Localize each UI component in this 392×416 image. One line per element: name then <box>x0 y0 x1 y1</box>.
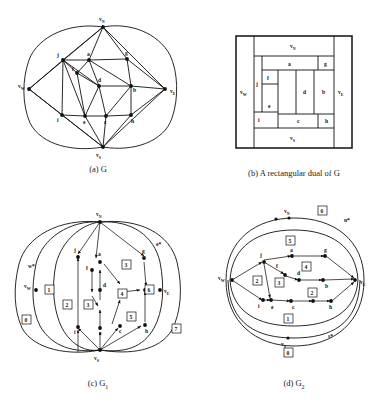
g1-label-f: f <box>86 265 88 271</box>
g2-face-5: 5 <box>289 238 292 244</box>
dual-room-f: f <box>267 75 269 81</box>
g2-label-h: h <box>329 304 333 310</box>
g2-label-n-star: n* <box>344 217 350 223</box>
g2-face-0: 0 <box>287 350 290 356</box>
g2-label-j: j <box>259 252 262 258</box>
panel-b-rectangular-dual: vN vS vW vE a g j f e d b i c h <box>196 22 392 162</box>
edges-from-vs <box>29 89 165 147</box>
vertex-label-h: h <box>131 118 135 124</box>
vertex-label-f: f <box>72 66 74 72</box>
caption-b: (b) A rectangular dual of G <box>196 168 392 178</box>
g2-contour-3 <box>230 280 358 326</box>
outer-contour-3 <box>54 222 100 350</box>
g1-face-7: 7 <box>175 326 178 332</box>
g2-face-2b: 2 <box>311 290 314 296</box>
dual-outer-frame <box>236 36 352 148</box>
g1-label-a: a <box>98 251 101 257</box>
g1-directed-edges <box>78 222 146 352</box>
g2-face-1: 1 <box>287 316 290 322</box>
g2-label-c: c <box>292 304 295 310</box>
dual-room-d: d <box>303 89 307 95</box>
g2-face-2a: 2 <box>256 278 259 284</box>
g2-label-e: e <box>271 304 274 310</box>
panel-a-graph-g: vN vS vW vE j a g f d b i e c h <box>0 0 196 160</box>
g2-label-s-star: s* <box>328 333 333 339</box>
g1-face-3b: 3 <box>125 262 128 268</box>
g2-label-b: b <box>325 283 328 289</box>
caption-a: (a) G <box>0 164 196 174</box>
vertex-label-i: i <box>57 117 59 123</box>
g1-label-j: j <box>73 247 76 253</box>
g1-label-vn: vN <box>96 211 102 219</box>
g1-label-e: e <box>99 330 102 336</box>
dual-label-vn: vN <box>290 43 296 51</box>
g1-face-0: 0 <box>25 317 28 323</box>
dual-label-vs: vS <box>290 135 296 143</box>
vertex-label-j: j <box>56 52 59 58</box>
g2-face-3: 3 <box>278 280 281 286</box>
vertex-label-g: g <box>125 50 128 56</box>
g2-label-ve: vE <box>360 279 366 287</box>
vertex-label-e: e <box>83 119 86 125</box>
g1-face-3a: 3 <box>87 302 90 308</box>
panel-b-svg: vN vS vW vE a g j f e d b i c h <box>196 22 392 162</box>
caption-c: (c) G1 <box>0 378 196 390</box>
caption-d-main: (d) G <box>283 378 301 388</box>
vertex-label-c: c <box>104 119 107 125</box>
g2-face-4: 4 <box>305 264 308 270</box>
outer-contour-1b <box>100 221 180 352</box>
panel-a-svg: vN vS vW vE j a g f d b i e c h <box>0 0 196 160</box>
dual-room-i: i <box>258 117 260 123</box>
g1-face-1: 1 <box>48 287 51 293</box>
panel-d-graph-g2: vN vS vW vE j a g f d b i e c h n* s* 0 … <box>196 200 392 370</box>
dual-label-ve: vE <box>338 89 344 97</box>
panel-d-svg: vN vS vW vE j a g f d b i e c h n* s* 0 … <box>196 200 392 370</box>
g1-face-2: 2 <box>66 302 69 308</box>
caption-c-main: (c) G <box>88 378 106 388</box>
g2-label-a: a <box>290 247 293 253</box>
vertex-label-vn: vN <box>99 16 105 24</box>
dual-room-g: g <box>324 61 327 67</box>
dual-room-b: b <box>322 89 325 95</box>
vertex-label-a: a <box>87 51 90 57</box>
g2-face-6: 6 <box>321 208 324 214</box>
g2-label-vw: vW <box>218 275 225 283</box>
caption-d: (d) G2 <box>196 378 392 390</box>
g1-label-i: i <box>74 329 76 335</box>
g1-face-4: 4 <box>121 291 124 297</box>
g1-label-w-star: w* <box>28 263 35 269</box>
dual-room-a: a <box>288 61 291 67</box>
g2-label-d: d <box>297 270 301 276</box>
g1-label-vw: vW <box>24 283 31 291</box>
dual-room-j: j <box>255 81 258 87</box>
dual-room-e: e <box>268 103 271 109</box>
vertex-label-ve: vE <box>170 88 176 96</box>
vertex-label-vs: vS <box>96 152 102 160</box>
vertex-label-b: b <box>133 87 136 93</box>
g2-directed-edges <box>232 256 354 301</box>
g2-label-g: g <box>324 247 327 253</box>
g2-label-vs: vS <box>281 341 287 349</box>
g1-label-g: g <box>142 248 145 254</box>
edges-west-east <box>29 59 165 115</box>
panel-c-svg: vN vS vW vE j a g f d b i e c h w* e* 0 … <box>0 200 196 370</box>
g1-face-5a: 5 <box>130 314 133 320</box>
g1-label-e-star: e* <box>156 241 161 247</box>
dual-room-c: c <box>297 118 300 124</box>
g1-face-6: 6 <box>148 287 151 293</box>
dual-label-vw: vW <box>240 89 247 97</box>
caption-c-sub: 1 <box>105 384 108 390</box>
g1-label-h: h <box>145 328 149 334</box>
g2-label-i: i <box>258 303 260 309</box>
g1-label-d: d <box>103 282 107 288</box>
caption-d-sub: 2 <box>302 384 305 390</box>
g1-label-ve: vE <box>164 288 170 296</box>
panel-c-graph-g1: vN vS vW vE j a g f d b i e c h w* e* 0 … <box>0 200 196 370</box>
vertex-label-d: d <box>98 77 102 83</box>
dual-room-h: h <box>325 118 329 124</box>
outer-contour-2 <box>33 222 100 351</box>
g2-label-vn: vN <box>284 208 290 216</box>
g2-label-f: f <box>276 263 278 269</box>
g1-label-c: c <box>119 328 122 334</box>
g1-label-vs: vS <box>94 355 100 363</box>
